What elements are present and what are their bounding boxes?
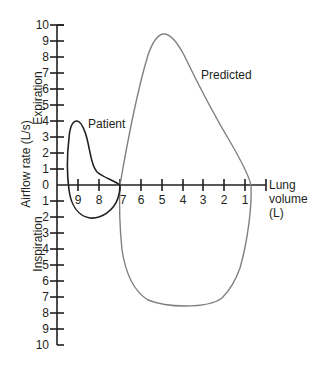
y-tick-label: 10: [36, 18, 50, 32]
x-tick-labels: 9 8 7 6 5 4 3 2 1: [75, 193, 249, 207]
y-tick-label: 3: [42, 130, 49, 144]
y-tick-label: 2: [42, 146, 49, 160]
y-tick-label: 1: [42, 162, 49, 176]
x-tick-label: 3: [200, 193, 207, 207]
y-tick-label: 7: [42, 290, 49, 304]
patient-label: Patient: [88, 117, 126, 131]
x-tick-label: 6: [138, 193, 145, 207]
x-tick-label: 7: [120, 193, 127, 207]
y-axis-title: Airflow rate (L/s): [19, 120, 33, 207]
x-axis-title-line1: Lung: [269, 178, 296, 192]
y-tick-label: 9: [42, 34, 49, 48]
x-axis-title-line3: (L): [269, 206, 284, 220]
y-tick-label: 0: [42, 178, 49, 192]
x-tick-label: 4: [180, 193, 187, 207]
y-tick-label: 8: [42, 306, 49, 320]
flow-volume-chart: 10 9 8 7 6 5 4 3 2 1 0 1 2 3 4 5 6 7 8 9…: [0, 0, 318, 365]
y-tick-label: 6: [42, 274, 49, 288]
y-tick-label: 9: [42, 322, 49, 336]
x-tick-label: 5: [159, 193, 166, 207]
y-tick-label: 8: [42, 50, 49, 64]
x-tick-label: 2: [221, 193, 228, 207]
x-tick-label: 1: [242, 193, 249, 207]
x-axis: [57, 179, 266, 191]
x-axis-title-line2: volume: [269, 192, 308, 206]
y-tick-label: 10: [36, 338, 50, 352]
x-axis-title: Lung volume (L): [269, 178, 308, 220]
expiration-label: Expiration: [31, 71, 45, 124]
predicted-label: Predicted: [201, 68, 252, 82]
y-tick-label: 1: [42, 194, 49, 208]
inspiration-label: Inspiration: [31, 216, 45, 271]
x-tick-label: 8: [96, 193, 103, 207]
x-tick-label: 9: [75, 193, 82, 207]
